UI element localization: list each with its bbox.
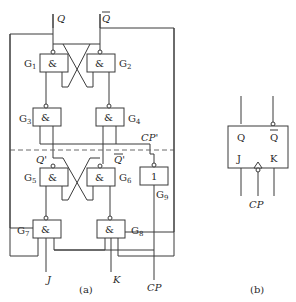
svg-text:&: & <box>48 172 57 183</box>
svg-text:&: & <box>41 224 50 235</box>
pin-q-bar-label: Q <box>270 132 278 143</box>
svg-text:1: 1 <box>151 171 157 182</box>
pin-cp-label: CP <box>249 199 264 210</box>
svg-text:&: & <box>95 58 104 69</box>
label-g4: G4 <box>128 113 141 126</box>
svg-text:&: & <box>105 224 114 235</box>
label-g7: G7 <box>17 225 29 238</box>
cp-prime-label: CP' <box>141 132 158 143</box>
caption-a: (a) <box>79 284 93 295</box>
label-g2: G2 <box>119 58 131 71</box>
svg-text:&: & <box>95 172 104 183</box>
figure-b-jk-symbol: Q Q J K CP (b) <box>228 96 288 295</box>
svg-text:&: & <box>48 58 57 69</box>
pin-k-label: K <box>270 153 278 164</box>
caption-b: (b) <box>250 284 264 295</box>
svg-text:&: & <box>104 112 113 123</box>
label-g5: G5 <box>24 172 36 185</box>
q-prime-label: Q' <box>36 154 47 165</box>
jk-flip-flop-diagram: & G1 & G2 & G3 & G4 CP' Q' Q' <box>0 0 296 302</box>
svg-text:&: & <box>41 112 50 123</box>
label-g8: G8 <box>131 225 143 238</box>
label-g1: G1 <box>24 58 36 71</box>
label-g3: G3 <box>19 113 31 126</box>
label-g9: G9 <box>156 189 168 202</box>
output-q-bar-label: Q <box>102 13 110 24</box>
figure-a-master-slave-circuit: & G1 & G2 & G3 & G4 CP' Q' Q' <box>10 12 174 295</box>
output-q-label: Q <box>57 13 65 24</box>
q-prime-bar-label: Q' <box>114 154 125 165</box>
label-g6: G6 <box>119 172 132 185</box>
input-cp-label: CP <box>147 282 162 293</box>
input-j-label: J <box>45 274 52 285</box>
pin-j-label: J <box>236 153 241 164</box>
input-k-label: K <box>112 274 121 285</box>
pin-q-label: Q <box>237 132 245 143</box>
